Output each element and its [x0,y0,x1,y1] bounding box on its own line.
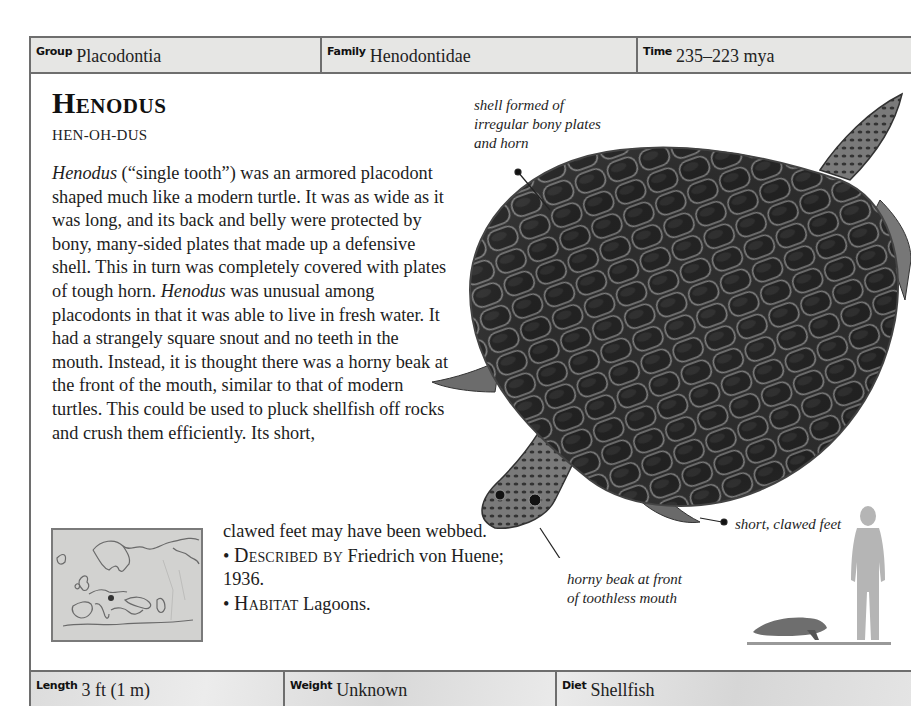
description-text: Henodus (“single tooth”) was an armored … [52,162,452,445]
henodus-silhouette-icon [753,618,827,640]
length-cell: Length 3 ft (1 m) [31,672,285,706]
group-label: Group [36,45,72,58]
description-part-2: was unusual among placodonts in that it … [52,281,448,443]
bullet: • [223,594,229,614]
species-name-italic: Henodus [52,163,117,183]
family-cell: Family Henodontidae [322,38,638,72]
callout-shell: shell formed of irregular bony plates an… [474,96,604,153]
footer-info-strip: Length 3 ft (1 m) Weight Unknown Diet Sh… [29,670,911,706]
diet-cell: Diet Shellfish [557,672,911,706]
fossil-location-marker [108,595,114,601]
fact-key: Habitat [234,592,299,614]
weight-cell: Weight Unknown [285,672,557,706]
family-label: Family [327,45,366,58]
bullet: • [223,546,229,566]
group-value: Placodontia [76,46,161,67]
weight-value: Unknown [336,680,407,701]
group-cell: Group Placodontia [31,38,322,72]
size-comparison-graphic [745,500,895,650]
locator-map [51,528,203,642]
europe-map-icon [53,530,203,642]
family-value: Henodontidae [370,46,471,67]
diet-label: Diet [562,679,586,692]
time-value: 235–223 mya [676,46,775,67]
header-info-strip: Group Placodontia Family Henodontidae Ti… [29,36,911,74]
fact-habitat: • Habitat Lagoons. [223,592,513,617]
callout-beak: horny beak at front of toothless mouth [567,570,687,608]
human-silhouette-icon [851,506,885,640]
fact-key: Described by [234,544,343,566]
time-label: Time [643,45,672,58]
time-cell: Time 235–223 mya [638,38,911,72]
pronunciation: HEN-OH-DUS [52,127,148,144]
henodus-illustration [420,88,911,558]
species-name-italic-2: Henodus [161,281,226,301]
fact-value: Lagoons. [303,594,371,614]
length-label: Length [36,679,77,692]
species-title: Henodus [52,88,166,118]
diet-value: Shellfish [590,680,654,701]
length-value: 3 ft (1 m) [81,680,149,701]
weight-label: Weight [290,679,332,692]
